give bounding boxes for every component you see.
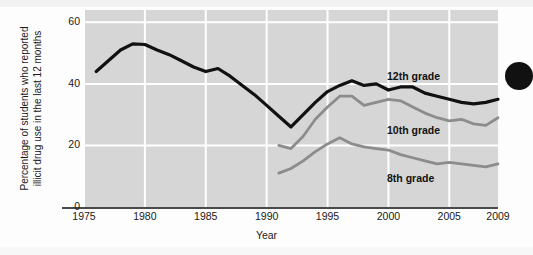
x-tick-label-2000: 2000 [358,210,418,222]
x-tick-label-1995: 1995 [298,210,358,222]
x-tick-label-2009: 2009 [468,210,528,222]
y-axis-title: Percentage of students who reported illi… [18,10,50,207]
line-chart-figure: 6040200 19751980198519901995200020052009… [0,0,533,255]
x-tick-label-1985: 1985 [176,210,236,222]
figure-page: 6040200 19751980198519901995200020052009… [0,0,533,255]
series-label-grade12: 12th grade [387,70,440,82]
y-axis-title-line2: illicit drug use in the last 12 months [31,10,44,207]
y-tick-60: 60 [52,16,80,27]
x-axis-title: Year [0,229,533,241]
series-label-grade8: 8th grade [387,172,434,184]
x-tick-label-1975: 1975 [54,210,114,222]
y-tick-label-60: 60 [54,16,80,27]
y-tick-40: 40 [52,78,80,89]
x-tick-label-1990: 1990 [237,210,297,222]
page-edge-dot [505,62,533,90]
y-tick-20: 20 [52,139,80,150]
gridlines [84,10,498,207]
x-axis-baseline [62,207,498,209]
series-line-12th-grade [96,44,498,127]
x-tick-label-1980: 1980 [115,210,175,222]
series-label-grade10: 10th grade [387,124,440,136]
data-series-group [96,44,498,173]
y-tick-label-40: 40 [54,78,80,89]
y-axis-title-line1: Percentage of students who reported [18,10,31,207]
y-tick-label-20: 20 [54,139,80,150]
